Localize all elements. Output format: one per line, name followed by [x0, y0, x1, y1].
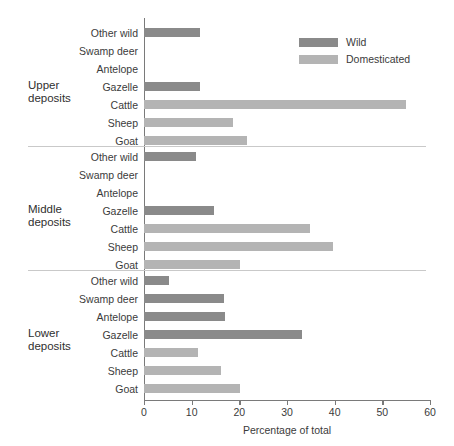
category-label: Sheep [40, 238, 138, 256]
bar-row: Other wild [0, 24, 454, 42]
category-label: Other wild [40, 272, 138, 290]
x-tick [144, 400, 145, 405]
legend-swatch-wild-icon [299, 38, 338, 47]
x-tick-label: 20 [233, 406, 245, 418]
bar-dom [144, 224, 310, 233]
category-label: Sheep [40, 114, 138, 132]
bar-row: Cattle [0, 220, 454, 238]
x-axis-title: Percentage of total [144, 424, 430, 436]
bar-dom [144, 242, 333, 251]
category-label: Cattle [40, 96, 138, 114]
bar-row: Goat [0, 380, 454, 398]
bar-wild [144, 294, 224, 303]
x-tick [287, 400, 288, 405]
bar-row: Antelope [0, 184, 454, 202]
category-label: Other wild [40, 148, 138, 166]
category-label: Swamp deer [40, 42, 138, 60]
bar-dom [144, 136, 247, 145]
category-label: Cattle [40, 220, 138, 238]
category-label: Goat [40, 380, 138, 398]
category-label: Swamp deer [40, 166, 138, 184]
category-label: Cattle [40, 344, 138, 362]
category-label: Antelope [40, 308, 138, 326]
x-tick-label: 50 [376, 406, 388, 418]
x-tick [192, 400, 193, 405]
category-label: Sheep [40, 362, 138, 380]
bar-row: Gazelle [0, 326, 454, 344]
bar-dom [144, 100, 406, 109]
bar-wild [144, 152, 196, 161]
bar-row: Sheep [0, 114, 454, 132]
x-tick-label: 60 [424, 406, 436, 418]
bar-row: Swamp deer [0, 290, 454, 308]
x-tick-label: 40 [329, 406, 341, 418]
category-label: Gazelle [40, 202, 138, 220]
category-label: Gazelle [40, 78, 138, 96]
x-tick [239, 400, 240, 405]
bar-dom [144, 366, 221, 375]
bar-dom [144, 348, 198, 357]
section-divider [28, 146, 426, 147]
legend-swatch-domesticated-icon [299, 55, 338, 64]
x-tick-label: 30 [281, 406, 293, 418]
bar-dom [144, 118, 233, 127]
bar-wild [144, 206, 214, 215]
bar-wild [144, 82, 200, 91]
bar-row: Antelope [0, 308, 454, 326]
category-label: Antelope [40, 60, 138, 78]
bar-row: Swamp deer [0, 166, 454, 184]
bar-row: Sheep [0, 238, 454, 256]
bar-wild [144, 330, 302, 339]
bar-row: Cattle [0, 96, 454, 114]
category-label: Other wild [40, 24, 138, 42]
bar-wild [144, 28, 200, 37]
bar-row: Sheep [0, 362, 454, 380]
bar-wild [144, 312, 225, 321]
x-tick-label: 10 [186, 406, 198, 418]
bar-row: Gazelle [0, 78, 454, 96]
bar-dom [144, 260, 240, 269]
x-tick [430, 400, 431, 405]
legend-label-wild: Wild [346, 34, 366, 51]
x-tick-label: 0 [141, 406, 147, 418]
x-tick [335, 400, 336, 405]
category-label: Antelope [40, 184, 138, 202]
horizontal-bar-chart: UpperdepositsOther wildSwamp deerAntelop… [0, 0, 454, 446]
bar-row: Cattle [0, 344, 454, 362]
x-tick [382, 400, 383, 405]
bar-row: Other wild [0, 272, 454, 290]
bar-wild [144, 276, 169, 285]
bar-row: Other wild [0, 148, 454, 166]
bar-dom [144, 384, 240, 393]
category-label: Swamp deer [40, 290, 138, 308]
bar-row: Gazelle [0, 202, 454, 220]
section-divider [28, 270, 426, 271]
legend-label-domesticated: Domesticated [346, 51, 410, 68]
category-label: Gazelle [40, 326, 138, 344]
